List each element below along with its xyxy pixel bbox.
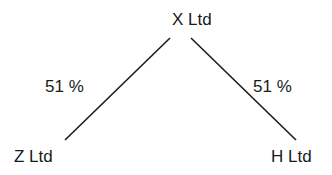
subsidiary-node-label-z: Z Ltd [14,148,53,166]
subsidiary-node-label-h: H Ltd [271,148,312,166]
parent-node-label: X Ltd [172,11,212,29]
ownership-label-right: 51 % [253,78,292,96]
ownership-label-left: 51 % [45,78,84,96]
